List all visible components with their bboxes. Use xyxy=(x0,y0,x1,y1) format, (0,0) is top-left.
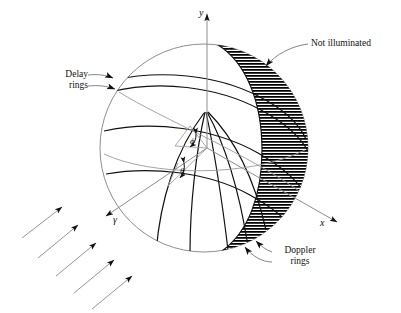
doppler-rings-label-line1: Doppler xyxy=(276,245,324,256)
delay-rings-label-line1: Delay xyxy=(34,69,88,80)
doppler-rings-label-line2: rings xyxy=(276,256,324,267)
incident-arrow-1 xyxy=(22,207,62,238)
doppler-rings-leader-2 xyxy=(245,247,272,262)
incident-arrow-2 xyxy=(38,225,78,258)
theta-angle-label: θ xyxy=(180,166,184,177)
delay-rings-label: Delay rings xyxy=(34,69,88,90)
phi-angle-label: ϕ xyxy=(190,136,195,147)
gamma-axis-label: γ xyxy=(113,215,117,226)
not-illuminated-label: Not illuminated xyxy=(311,38,371,49)
x-axis-label: x xyxy=(320,218,324,229)
incident-arrow-5 xyxy=(92,276,132,309)
delay-rings-leader-2 xyxy=(88,86,115,89)
y-axis-label: y xyxy=(199,8,203,19)
figure-canvas: y x γ ϕ θ Not illuminated Delay rings Do… xyxy=(0,0,401,313)
doppler-rings-leader-1 xyxy=(256,241,272,252)
incident-arrow-3 xyxy=(56,243,96,276)
delay-rings-label-line2: rings xyxy=(34,80,88,91)
incident-arrow-4 xyxy=(74,260,114,293)
delay-rings-leader-1 xyxy=(88,75,113,78)
not-illuminated-leader xyxy=(266,44,308,66)
doppler-rings-label: Doppler rings xyxy=(276,245,324,266)
